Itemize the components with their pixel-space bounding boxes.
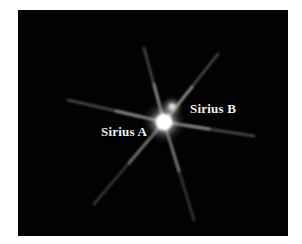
sirius-b-label: Sirius B [190, 101, 236, 117]
sirius-a-label: Sirius A [101, 124, 147, 140]
star-image-panel: Sirius A Sirius B [18, 10, 288, 236]
sirius-a-star [142, 100, 186, 144]
sirius-star-field [18, 10, 288, 236]
